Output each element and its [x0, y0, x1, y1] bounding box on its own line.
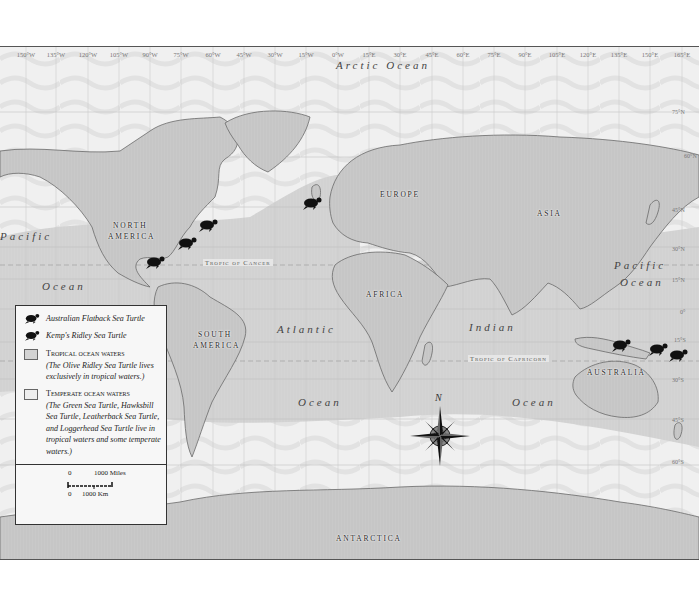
- temperate-waters-swatch: [24, 389, 38, 400]
- latitude-label: 60°N: [684, 153, 697, 159]
- longitude-label: 15°W: [298, 51, 313, 58]
- map-legend: Australian Flatback Sea Turtle Kemp's Ri…: [15, 305, 167, 525]
- latitude-label: 30°N: [672, 246, 685, 252]
- longitude-label: 165°E: [674, 51, 690, 58]
- legend-item-kemps-ridley: Kemp's Ridley Sea Turtle: [24, 330, 162, 342]
- label-south-america: SOUTH: [198, 330, 232, 339]
- latitude-label: 0°: [680, 309, 685, 315]
- compass-rose-icon: [409, 405, 471, 467]
- label-south-america: AMERICA: [193, 341, 240, 350]
- longitude-label: 45°W: [236, 51, 251, 58]
- latitude-label: 30°S: [672, 377, 684, 383]
- scale-miles-label: 1000 Miles: [94, 469, 126, 477]
- label-tropic-of-capricorn: Tropic of Capricorn: [468, 355, 549, 362]
- legend-item-temperate-waters: Temperate ocean waters(The Green Sea Tur…: [24, 388, 162, 457]
- longitude-label: 30°E: [393, 51, 406, 58]
- tropical-waters-swatch: [24, 349, 38, 360]
- latitude-label: 75°N: [672, 109, 685, 115]
- legend-title: Temperate ocean waters: [46, 388, 162, 400]
- scale-bar-icon: [66, 481, 116, 489]
- kemps-ridley-turtle-icon: [24, 330, 40, 341]
- longitude-label: 75°W: [173, 51, 188, 58]
- latitude-label: 15°N: [672, 277, 685, 283]
- label-antarctica: ANTARCTICA: [336, 534, 402, 543]
- label-arctic-ocean: Arctic Ocean: [336, 59, 430, 71]
- longitude-label: 150°W: [17, 51, 35, 58]
- label-indian-ocean: Ocean: [512, 396, 556, 408]
- label-pacific-ocean-west: Ocean: [42, 280, 86, 292]
- longitude-label: 105°W: [110, 51, 128, 58]
- longitude-label: 120°E: [580, 51, 596, 58]
- longitude-label: 90°W: [142, 51, 157, 58]
- latitude-label: 15°S: [674, 337, 686, 343]
- scale-km-zero: 0: [68, 490, 72, 498]
- label-atlantic-ocean: Ocean: [298, 396, 342, 408]
- legend-label: Australian Flatback Sea Turtle: [46, 313, 145, 325]
- longitude-label: 120°W: [79, 51, 97, 58]
- longitude-label: 135°E: [611, 51, 627, 58]
- compass-north-label: N: [435, 392, 442, 403]
- label-asia: ASIA: [537, 209, 562, 218]
- longitude-label: 60°W: [205, 51, 220, 58]
- legend-note: (The Green Sea Turtle, Hawksbill Sea Tur…: [46, 401, 161, 456]
- latitude-label: 45°S: [672, 417, 684, 423]
- map-scale-bar: 0 1000 Miles 0 1000 Km: [56, 469, 136, 501]
- longitude-label: 135°W: [47, 51, 65, 58]
- latitude-label: 60°S: [672, 459, 684, 465]
- label-africa: AFRICA: [366, 290, 404, 299]
- legend-title: Tropical ocean waters: [46, 348, 162, 360]
- scale-miles-zero: 0: [68, 469, 72, 477]
- longitude-label: 0°W: [332, 51, 344, 58]
- label-atlantic-ocean: Atlantic: [277, 323, 336, 335]
- longitude-label: 75°E: [487, 51, 500, 58]
- label-north-america: NORTH: [113, 221, 147, 230]
- label-pacific-ocean-east: Pacific: [614, 259, 666, 271]
- longitude-label: 90°E: [518, 51, 531, 58]
- legend-note: (The Olive Ridley Sea Turtle lives exclu…: [46, 361, 154, 382]
- longitude-label: 15°E: [362, 51, 375, 58]
- longitude-label: 150°E: [642, 51, 658, 58]
- longitude-label: 105°E: [549, 51, 565, 58]
- scale-km-label: 1000 Km: [82, 490, 108, 498]
- longitude-label: 45°E: [425, 51, 438, 58]
- legend-item-tropical-waters: Tropical ocean waters(The Olive Ridley S…: [24, 348, 162, 383]
- legend-item-australian-flatback: Australian Flatback Sea Turtle: [24, 313, 162, 325]
- label-europe: EUROPE: [380, 190, 420, 199]
- label-australia: AUSTRALIA: [587, 368, 646, 377]
- label-pacific-ocean-west: Pacific: [0, 230, 52, 242]
- legend-divider: [16, 464, 166, 465]
- british-isles-landmass: [312, 185, 321, 200]
- label-pacific-ocean-east: Ocean: [620, 276, 664, 288]
- australian-flatback-turtle-icon: [24, 313, 40, 324]
- label-indian-ocean: Indian: [469, 321, 516, 333]
- legend-label: Kemp's Ridley Sea Turtle: [46, 330, 127, 342]
- longitude-label: 60°E: [456, 51, 469, 58]
- latitude-label: 45°N: [672, 207, 685, 213]
- label-north-america: AMERICA: [108, 232, 155, 241]
- label-tropic-of-cancer: Tropic of Cancer: [203, 259, 273, 266]
- longitude-label: 30°W: [267, 51, 282, 58]
